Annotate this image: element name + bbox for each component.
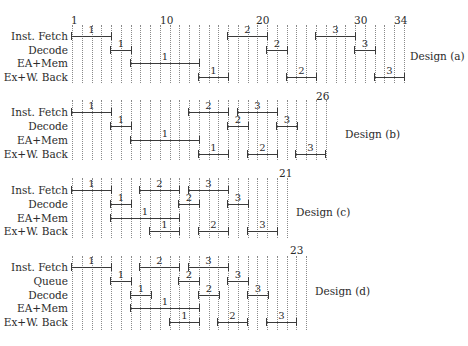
stage-interval-bar: 1 [111, 50, 131, 51]
cycle-gridline [121, 100, 122, 160]
instruction-number-label: 2 [267, 39, 287, 49]
instruction-number-label: 1 [150, 220, 179, 230]
stage-label: Inst. Fetch [2, 261, 68, 273]
stage-interval-bar: 3 [316, 36, 355, 37]
stage-label: Ex+W. Back [2, 148, 68, 160]
instruction-number-label: 1 [111, 115, 131, 125]
design-label: Design (d) [315, 285, 370, 297]
stage-interval-bar: 1 [111, 218, 179, 219]
stage-label: Ex+W. Back [2, 316, 68, 328]
stage-interval-bar: 3 [296, 154, 325, 155]
stage-interval-bar: 1 [111, 204, 131, 205]
instruction-number-label: 1 [111, 39, 131, 49]
stage-interval-bar: 1 [131, 295, 151, 296]
instruction-number-label: 2 [179, 270, 199, 280]
cycle-number-label: 10 [160, 14, 173, 26]
stage-interval-bar: 2 [287, 77, 316, 78]
instruction-number-label: 3 [228, 193, 248, 203]
cycle-gridline [306, 256, 307, 330]
stage-interval-bar: 3 [189, 190, 228, 191]
stage-interval-bar: 1 [150, 231, 179, 232]
cycle-gridline [365, 25, 366, 83]
cycle-gridline [287, 178, 288, 238]
instruction-number-label: 2 [287, 66, 316, 76]
instruction-number-label: 2 [248, 143, 277, 153]
stage-interval-bar: 2 [189, 112, 228, 113]
stage-label: Ex+W. Back [2, 71, 68, 83]
stage-label: Ex+W. Back [2, 225, 68, 237]
instruction-number-label: 2 [140, 179, 179, 189]
cycle-gridline [238, 178, 239, 238]
stage-interval-bar: 1 [111, 281, 131, 282]
stage-interval-bar: 1 [170, 322, 199, 323]
stage-interval-bar: 1 [199, 154, 228, 155]
stage-interval-bar: 3 [355, 50, 375, 51]
stage-interval-bar: 3 [228, 204, 248, 205]
stage-interval-bar: 2 [228, 36, 267, 37]
stage-label: Inst. Fetch [2, 106, 68, 118]
instruction-number-label: 3 [277, 115, 297, 125]
stage-label: Decode [2, 44, 68, 56]
instruction-number-label: 1 [131, 284, 151, 294]
instruction-number-label: 3 [248, 220, 277, 230]
cycle-gridline [277, 25, 278, 83]
stage-label: EA+Mem [2, 212, 68, 224]
instruction-number-label: 1 [199, 143, 228, 153]
instruction-number-label: 2 [140, 256, 179, 266]
stage-label: Inst. Fetch [2, 184, 68, 196]
stage-interval-bar: 1 [111, 126, 131, 127]
instruction-number-label: 3 [296, 143, 325, 153]
instruction-number-label: 1 [72, 25, 111, 35]
cycle-number-label: 21 [279, 167, 292, 179]
instruction-number-label: 3 [267, 311, 296, 321]
design-label: Design (c) [296, 206, 350, 218]
instruction-number-label: 2 [228, 25, 267, 35]
stage-interval-bar: 2 [199, 295, 219, 296]
stage-interval-bar: 2 [228, 126, 248, 127]
stage-interval-bar: 1 [131, 308, 199, 309]
instruction-number-label: 3 [316, 25, 355, 35]
instruction-number-label: 3 [189, 179, 228, 189]
stage-interval-bar: 3 [375, 77, 404, 78]
stage-label: Decode [2, 120, 68, 132]
cycle-gridline [326, 100, 327, 160]
stage-interval-bar: 3 [267, 322, 296, 323]
instruction-number-label: 1 [131, 297, 199, 307]
instruction-number-label: 3 [189, 256, 228, 266]
instruction-number-label: 3 [248, 284, 268, 294]
stage-interval-bar: 2 [140, 267, 179, 268]
cycle-number-label: 34 [394, 14, 407, 26]
stage-interval-bar: 1 [72, 112, 111, 113]
instruction-number-label: 2 [179, 193, 199, 203]
stage-interval-bar: 2 [140, 190, 179, 191]
instruction-number-label: 1 [72, 101, 111, 111]
instruction-number-label: 3 [355, 39, 375, 49]
stage-interval-bar: 3 [189, 267, 228, 268]
stage-label: EA+Mem [2, 134, 68, 146]
cycle-gridline [121, 256, 122, 330]
stage-interval-bar: 3 [228, 281, 248, 282]
instruction-number-label: 3 [238, 101, 277, 111]
stage-label: Inst. Fetch [2, 30, 68, 42]
instruction-number-label: 1 [170, 311, 199, 321]
stage-label: EA+Mem [2, 302, 68, 314]
cycle-number-label: 30 [354, 14, 367, 26]
instruction-number-label: 2 [218, 311, 247, 321]
stage-interval-bar: 1 [199, 77, 228, 78]
stage-interval-bar: 2 [179, 281, 199, 282]
stage-interval-bar: 3 [238, 112, 277, 113]
cycle-number-label: 26 [316, 90, 329, 102]
stage-interval-bar: 2 [248, 154, 277, 155]
instruction-number-label: 2 [189, 101, 228, 111]
instruction-number-label: 1 [199, 66, 228, 76]
stage-interval-bar: 3 [277, 126, 297, 127]
stage-interval-bar: 3 [248, 295, 268, 296]
design-label: Design (a) [410, 50, 465, 62]
cycle-gridline [287, 100, 288, 160]
instruction-number-label: 2 [199, 284, 219, 294]
stage-label: Decode [2, 289, 68, 301]
instruction-number-label: 1 [131, 52, 199, 62]
stage-interval-bar: 1 [72, 267, 111, 268]
stage-interval-bar: 3 [248, 231, 277, 232]
stage-interval-bar: 1 [131, 140, 199, 141]
